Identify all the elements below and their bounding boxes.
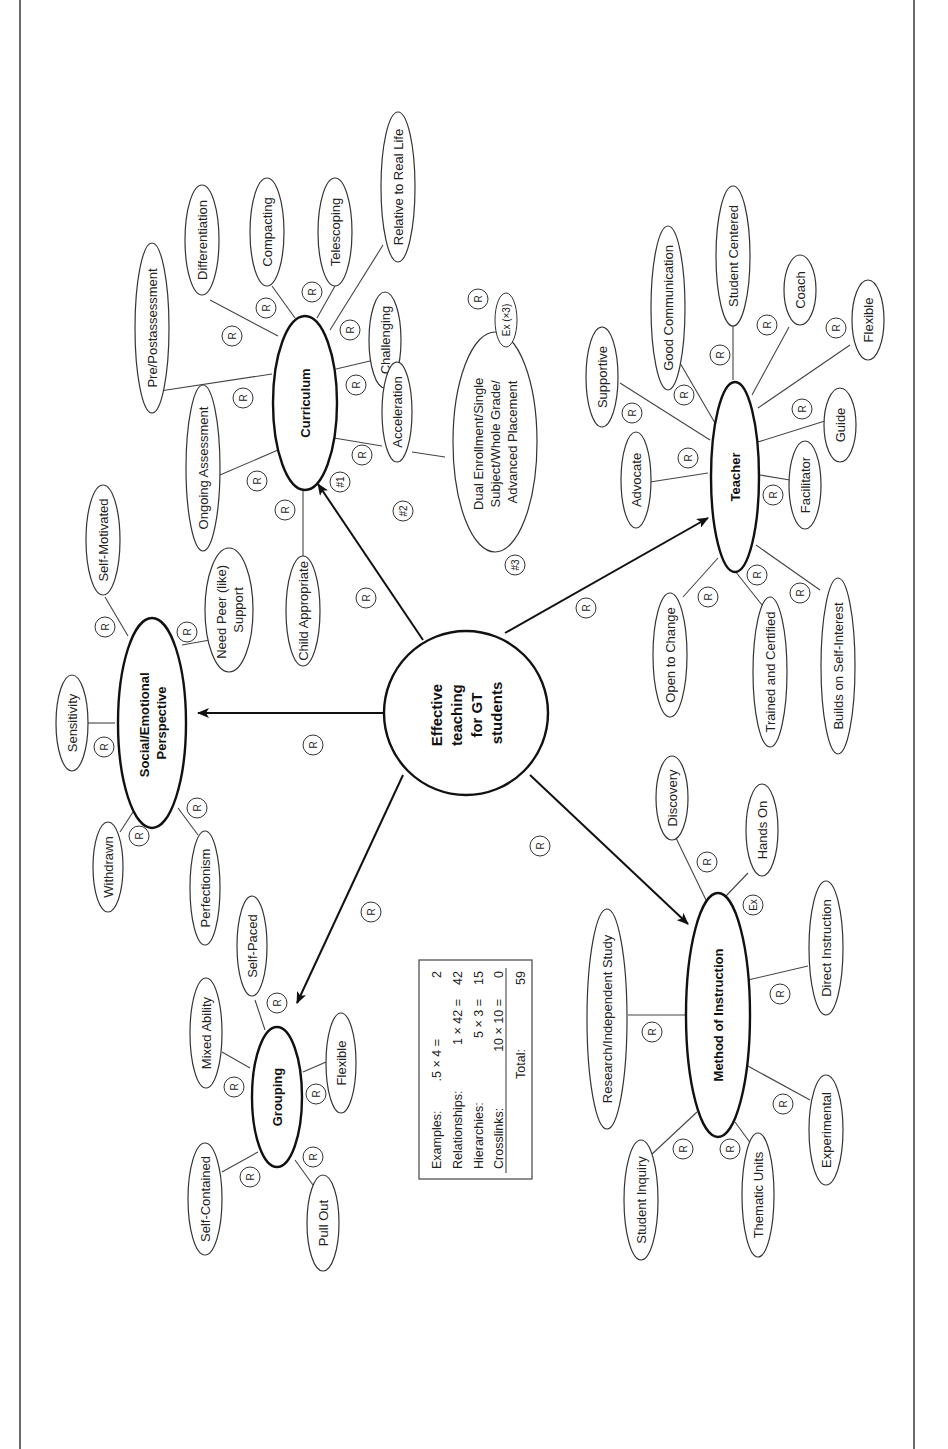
- node-acceleration[interactable]: Acceleration: [382, 362, 412, 462]
- svg-text:Child Appropriate: Child Appropriate: [296, 561, 311, 661]
- center-node[interactable]: Effective teaching for GT students: [384, 631, 548, 795]
- svg-text:Differentiation: Differentiation: [195, 200, 210, 280]
- svg-text:R: R: [192, 804, 203, 811]
- node-thematic-units[interactable]: Thematic Units: [742, 1133, 774, 1257]
- svg-text:R: R: [702, 858, 713, 865]
- main-node-curriculum[interactable]: Curriculum: [273, 316, 337, 490]
- r-badge-icon: R: [642, 1022, 662, 1042]
- svg-text:R: R: [797, 405, 808, 412]
- main-node-teacher[interactable]: Teacher: [711, 382, 759, 572]
- node-student-centered[interactable]: Student Centered: [716, 186, 750, 326]
- r-badge-icon: R: [356, 588, 376, 608]
- node-need-peer-support[interactable]: Need Peer (like) Support: [205, 548, 253, 672]
- r-badge-icon: R: [267, 993, 287, 1013]
- node-self-contained[interactable]: Self-Contained: [188, 1143, 222, 1255]
- node-telescoping[interactable]: Telescoping: [318, 178, 352, 286]
- center-label-line-4: students: [488, 682, 505, 745]
- svg-text:Ex: Ex: [748, 899, 759, 911]
- r-badge-icon: R: [747, 565, 767, 585]
- svg-text:Student Inquiry: Student Inquiry: [634, 1156, 649, 1244]
- svg-text:R: R: [752, 571, 763, 578]
- svg-text:Acceleration: Acceleration: [390, 376, 405, 448]
- score-label-examples: Examples:: [430, 1111, 444, 1169]
- svg-text:Facilitator: Facilitator: [798, 456, 813, 513]
- node-supportive[interactable]: Supportive: [586, 327, 618, 427]
- main-node-social-emotional[interactable]: Social/Emotional Perspective: [118, 618, 186, 828]
- svg-text:#1: #1: [335, 476, 346, 488]
- svg-text:R: R: [725, 1145, 736, 1152]
- svg-text:R: R: [308, 1153, 319, 1160]
- svg-text:#2: #2: [398, 505, 409, 517]
- svg-text:R: R: [678, 1145, 689, 1152]
- grouping-label: Grouping: [270, 1068, 285, 1127]
- method-label: Method of Instruction: [711, 949, 726, 1082]
- svg-text:Flexible: Flexible: [334, 1041, 349, 1086]
- node-experimental[interactable]: Experimental: [809, 1075, 843, 1185]
- node-compacting[interactable]: Compacting: [250, 178, 284, 286]
- node-hands-on[interactable]: Hands On: [746, 784, 778, 876]
- node-research-independent-study[interactable]: Research/Independent Study: [587, 909, 627, 1129]
- r-badge-icon: R: [306, 1084, 326, 1104]
- node-mixed-ability[interactable]: Mixed Ability: [190, 978, 222, 1088]
- svg-text:Ex (×3): Ex (×3): [501, 304, 512, 337]
- node-builds-on-self-interest[interactable]: Builds on Self-Interest: [821, 578, 855, 754]
- svg-text:Coach: Coach: [793, 271, 808, 309]
- svg-text:Compacting: Compacting: [260, 197, 275, 266]
- node-grouping-flexible[interactable]: Flexible: [326, 1013, 356, 1113]
- r-badge-icon: R: [697, 852, 717, 872]
- r-badge-icon: R: [773, 1094, 793, 1114]
- main-node-method-of-instruction[interactable]: Method of Instruction: [686, 893, 750, 1137]
- svg-text:R: R: [345, 326, 356, 333]
- node-differentiation[interactable]: Differentiation: [185, 185, 219, 295]
- node-relative-to-real-life[interactable]: Relative to Real Life: [381, 112, 415, 262]
- svg-text:Direct Instruction: Direct Instruction: [819, 899, 834, 997]
- svg-text:R: R: [182, 628, 193, 635]
- node-sensitivity[interactable]: Sensitivity: [56, 675, 88, 771]
- node-good-communication[interactable]: Good Communication: [651, 226, 685, 390]
- concept-map: Effective teaching for GT students Curri…: [0, 0, 948, 1449]
- svg-text:R: R: [361, 594, 372, 601]
- node-dual-enrollment[interactable]: Dual Enrollment/Single Subject/Whole Gra…: [453, 332, 537, 552]
- node-direct-instruction[interactable]: Direct Instruction: [809, 881, 843, 1015]
- r-badge-icon: R: [710, 345, 730, 365]
- svg-text:R: R: [366, 908, 377, 915]
- node-teacher-flexible[interactable]: Flexible: [852, 280, 884, 360]
- r-badge-icon: R: [275, 500, 295, 520]
- node-facilitator[interactable]: Facilitator: [789, 441, 821, 529]
- main-node-grouping[interactable]: Grouping: [252, 1027, 302, 1167]
- node-self-motivated[interactable]: Self-Motivated: [86, 485, 120, 595]
- r-badge-icon: R: [361, 902, 381, 922]
- node-discovery[interactable]: Discovery: [656, 756, 688, 840]
- r-badge-icon: R: [763, 485, 783, 505]
- node-pull-out[interactable]: Pull Out: [307, 1175, 339, 1271]
- r-badge-icon: R: [622, 403, 642, 423]
- node-advocate[interactable]: Advocate: [621, 432, 651, 528]
- node-trained-and-certified[interactable]: Trained and Certified: [753, 597, 787, 747]
- r-badge-icon: R: [240, 1167, 260, 1187]
- r-badge-icon: R: [826, 318, 846, 338]
- node-guide[interactable]: Guide: [824, 388, 856, 462]
- teacher-label: Teacher: [728, 453, 743, 502]
- node-child-appropriate[interactable]: Child Appropriate: [286, 556, 320, 666]
- score-value-crosslinks: 0: [492, 971, 506, 978]
- r-badge-icon: R: [674, 385, 694, 405]
- svg-text:R: R: [252, 477, 263, 484]
- svg-text:Withdrawn: Withdrawn: [101, 836, 116, 897]
- r-badge-icon: R: [468, 289, 488, 309]
- node-open-to-change[interactable]: Open to Change: [653, 593, 687, 717]
- svg-text:Trained and Certified: Trained and Certified: [763, 612, 778, 733]
- svg-text:Perfectionism: Perfectionism: [198, 849, 213, 928]
- node-withdrawn[interactable]: Withdrawn: [93, 822, 123, 912]
- node-pre-postassessment[interactable]: Pre/Postassessment: [135, 243, 169, 413]
- node-coach[interactable]: Coach: [784, 255, 816, 325]
- svg-text:R: R: [581, 604, 592, 611]
- svg-text:Student Centered: Student Centered: [726, 205, 741, 307]
- svg-text:R: R: [307, 288, 318, 295]
- score-value-hierarchies: 15: [472, 971, 486, 985]
- node-perfectionism[interactable]: Perfectionism: [190, 831, 220, 945]
- node-ongoing-assessment[interactable]: Ongoing Assessment: [186, 385, 220, 551]
- node-student-inquiry[interactable]: Student Inquiry: [624, 1140, 658, 1260]
- node-self-paced[interactable]: Self-Paced: [237, 896, 267, 996]
- center-label-line-2: teaching: [448, 684, 465, 746]
- score-formula-hierarchies: 5 × 3 =: [472, 999, 486, 1038]
